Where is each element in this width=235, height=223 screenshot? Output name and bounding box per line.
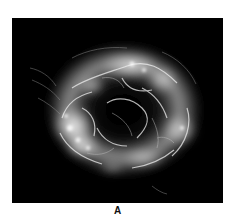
astronomical-image (12, 18, 223, 203)
supernova-remnant-graphic (12, 18, 223, 203)
panel-label: A (0, 205, 235, 216)
